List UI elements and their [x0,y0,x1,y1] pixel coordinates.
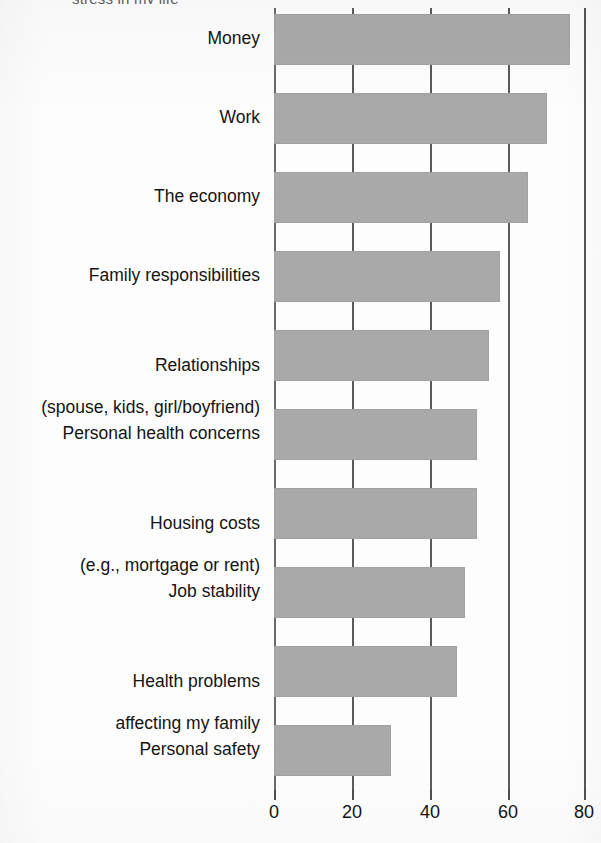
category-label-job-stability: Job stability [0,581,260,602]
tick-mark-20 [352,790,354,800]
bar-work [274,93,547,144]
tick-label-0: 0 [269,802,279,823]
category-label-relationships-line2: (spouse, kids, girl/boyfriend) [41,397,260,417]
category-label-personal-health-concerns: Personal health concerns [0,423,260,444]
category-label-health-problems-line2: affecting my family [115,713,260,733]
tick-label-60: 60 [498,802,518,823]
bar-family-responsibilities [274,251,500,302]
tick-mark-60 [508,790,510,800]
category-label-health-problems-line1: Health problems [133,671,260,691]
bar-job-stability [274,567,465,618]
bar-the-economy [274,172,528,223]
chart-figure: stress in my life Money Work The economy… [0,0,601,843]
bar-health-problems-affecting-my-family [274,646,457,697]
tick-mark-40 [430,790,432,800]
tick-label-80: 80 [574,802,594,823]
category-label-money: Money [0,28,260,49]
category-label-work: Work [0,107,260,128]
category-label-housing-costs-line2: (e.g., mortgage or rent) [80,555,260,575]
x-axis: 0 20 40 60 80 [274,790,586,840]
tick-label-40: 40 [420,802,440,823]
bar-housing-costs [274,488,477,539]
category-label-the-economy: The economy [0,186,260,207]
gridline-80 [584,8,586,790]
category-axis-labels: Money Work The economy Family responsibi… [0,0,266,790]
bar-personal-health-concerns [274,409,477,460]
plot-area [274,8,586,790]
category-label-health-problems-family: Health problems affecting my family [0,650,260,734]
category-label-relationships-line1: Relationships [155,355,260,375]
category-label-family-responsibilities: Family responsibilities [0,265,260,286]
tick-mark-80 [584,790,586,800]
bar-relationships [274,330,489,381]
bar-money [274,14,570,65]
category-label-personal-safety: Personal safety [0,739,260,760]
tick-mark-0 [274,790,276,800]
category-label-relationships: Relationships (spouse, kids, girl/boyfri… [0,334,260,418]
category-label-housing-costs-line1: Housing costs [150,513,260,533]
tick-label-20: 20 [342,802,362,823]
bar-personal-safety [274,725,391,776]
category-label-housing-costs: Housing costs (e.g., mortgage or rent) [0,492,260,576]
